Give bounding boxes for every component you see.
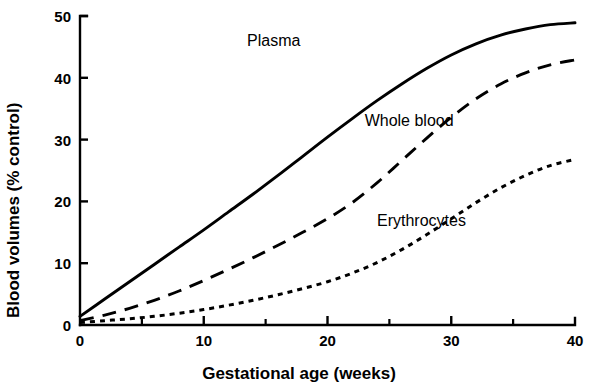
x-tick-label: 30	[443, 332, 460, 349]
axes	[80, 16, 575, 325]
x-tick-label: 20	[319, 332, 336, 349]
x-tick-label: 10	[195, 332, 212, 349]
series-line-erythrocytes	[80, 159, 575, 322]
y-tick-label: 20	[54, 193, 71, 210]
series-line-plasma	[80, 23, 575, 317]
x-tick-label: 0	[76, 332, 84, 349]
y-tick-label: 50	[54, 8, 71, 25]
y-tick-label: 40	[54, 69, 71, 86]
x-tick-label: 40	[567, 332, 584, 349]
plot-area	[0, 0, 598, 389]
data-series-group	[80, 23, 575, 323]
y-axis-label: Blood volumes (% control)	[4, 103, 24, 318]
x-axis-ticks	[142, 316, 513, 325]
series-label-plasma: Plasma	[247, 32, 300, 50]
y-axis-line	[80, 16, 87, 325]
y-tick-label: 10	[54, 255, 71, 272]
x-axis-label: Gestational age (weeks)	[202, 364, 396, 384]
chart-figure: Blood volumes (% control) Gestational ag…	[0, 0, 598, 389]
y-tick-label: 30	[54, 131, 71, 148]
y-tick-label: 0	[63, 317, 71, 334]
series-label-erythrocytes: Erythrocytes	[377, 212, 466, 230]
series-label-whole-blood: Whole blood	[365, 112, 454, 130]
